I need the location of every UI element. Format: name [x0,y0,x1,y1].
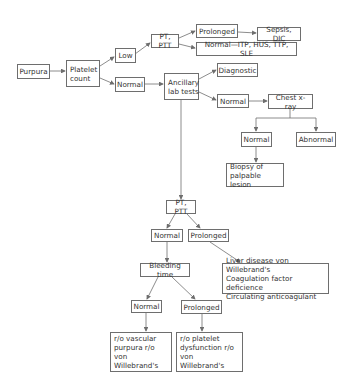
node-abnormal-xray: Abnormal [296,132,336,147]
node-biopsy: Biopsy of palpable lesion [226,163,284,187]
node-diagnostic: Diagnostic [217,63,258,77]
node-normal-xray: Normal [241,132,272,147]
node-ro-platelet: r/o platelet dysfunction r/o von Willebr… [176,332,243,372]
node-low: Low [115,48,136,63]
node-chest-xray: Chest x-ray [268,94,313,109]
node-prolonged-bt: Prolonged [181,300,222,314]
node-liver-disease: Liver disease von Willebrand's Coagulati… [222,263,329,294]
node-purpura: Purpura [17,64,50,79]
node-pt-ptt-low: PT, PTT [151,34,179,48]
node-normal-itp: Normal—ITP, HUS, TTP, SLE [196,42,297,56]
node-prolonged-pt: Prolonged [188,229,229,242]
node-ro-vascular: r/o vascular purpura r/o von Willebrand'… [110,332,172,372]
node-prolonged-low: Prolonged [196,24,238,38]
node-normal-bt: Normal [131,300,162,313]
node-sepsis-dic: Sepsis, DIC [257,27,301,41]
purpura-flowchart: Purpura Platelet count Low Normal PT, PT… [0,0,354,382]
node-platelet-count: Platelet count [66,60,100,87]
node-ancillary-lab-tests: Ancillary lab tests [164,73,199,100]
node-pt-ptt-2: PT, PTT [166,200,196,214]
node-bleeding-time: Bleeding time [140,263,190,277]
node-normal-ancillary: Normal [217,94,249,108]
node-normal-platelet: Normal [115,77,145,92]
node-normal-pt: Normal [151,229,183,242]
connector-arrows [0,0,354,382]
